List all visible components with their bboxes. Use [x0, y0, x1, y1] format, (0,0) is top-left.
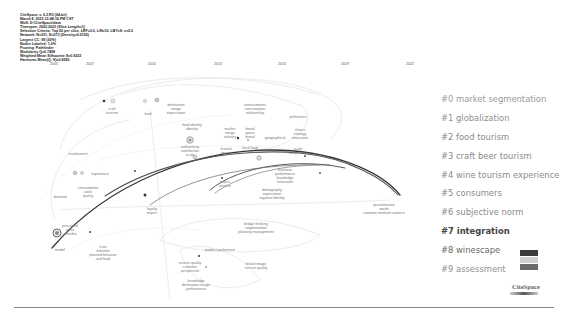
legend-item-cluster-9[interactable]: #9 assessment: [441, 264, 506, 274]
node-label[interactable]: model: [55, 248, 65, 252]
node-label[interactable]: experience: [91, 172, 109, 176]
legend-label: #8 winescape: [441, 245, 500, 255]
legend-label: #3 craft beer tourism: [441, 151, 532, 161]
legend-label: #1 globalization: [441, 113, 509, 123]
legend-label: #0 market segmentation: [441, 94, 546, 104]
legend-item-cluster-1[interactable]: #1 globalization: [441, 113, 509, 123]
node-label[interactable]: questionnaire words common method varian…: [363, 203, 404, 215]
node-label[interactable]: demography expectation regional identity: [259, 188, 284, 200]
legend-item-cluster-8[interactable]: #8 winescape: [441, 245, 500, 255]
node-label[interactable]: scale competition: [289, 147, 307, 155]
legend-item-cluster-7[interactable]: #7 integration: [441, 226, 510, 236]
citespace-logo-mark: [510, 292, 538, 295]
legend-item-cluster-3[interactable]: #3 craft beer tourism: [441, 151, 532, 161]
node-label[interactable]: impact service: [219, 180, 230, 188]
node-label[interactable]: local food food: [242, 146, 257, 154]
node-label[interactable]: festival image: [220, 147, 231, 155]
node-label[interactable]: geographical: [265, 136, 286, 140]
node-label[interactable]: brand image service quality: [245, 262, 268, 270]
legend-item-cluster-0[interactable]: #0 market segmentation: [441, 94, 546, 104]
node-label[interactable]: involvement: [68, 152, 87, 156]
node-label[interactable]: brand space brand: [245, 127, 255, 139]
legend-label: #6 subjective norm: [441, 207, 523, 217]
legend-item-cluster-4[interactable]: #4 wine tourism experience: [441, 170, 559, 180]
node-label[interactable]: product preference: [205, 248, 235, 252]
colorbar-swatch-light: [520, 257, 538, 263]
node-label[interactable]: consumption value quality: [78, 186, 98, 198]
node-label[interactable]: perceived value attitudes: [62, 224, 78, 236]
legend-item-cluster-2[interactable]: #2 food tourism: [441, 132, 509, 142]
node-label[interactable]: choice strategy innovation: [292, 128, 308, 140]
node-label[interactable]: service quality customer perspective: [179, 261, 202, 273]
node-label[interactable]: food: [145, 112, 152, 116]
node-label[interactable]: food identity identity: [182, 123, 201, 131]
bottom-divider: [14, 307, 554, 308]
colorbar-swatch-mid: [520, 264, 538, 270]
node-label[interactable]: reenactments consumption relationship: [244, 103, 266, 115]
node-label[interactable]: bridge thinking segmentation planning ma…: [238, 222, 274, 234]
node-label[interactable]: demand: [54, 195, 67, 199]
node-label[interactable]: knowledge destination image performance: [182, 279, 210, 291]
legend-label: #9 assessment: [441, 264, 506, 274]
node-label[interactable]: preference: [289, 115, 306, 119]
legend-label: #5 consumers: [441, 188, 502, 198]
legend-label: #4 wine tourism experience: [441, 170, 559, 180]
node-label[interactable]: loyalty impact: [147, 207, 158, 215]
legend-label: #7 integration: [441, 226, 510, 236]
node-label[interactable]: market image industry: [224, 127, 237, 139]
node-label[interactable]: business performance knowledge innovatio…: [275, 168, 295, 184]
node-label[interactable]: destination image expectation: [167, 103, 185, 115]
legend-item-cluster-6[interactable]: #6 subjective norm: [441, 207, 523, 217]
node-label[interactable]: trust intention planned behavior and foo…: [89, 245, 117, 261]
node-label[interactable]: craft tourism: [106, 107, 118, 115]
legend-item-cluster-5[interactable]: #5 consumers: [441, 188, 502, 198]
colorbar-swatch-dark: [520, 250, 538, 256]
legend-label: #2 food tourism: [441, 132, 509, 142]
citespace-logo: CiteSpace: [512, 283, 540, 290]
node-label[interactable]: authenticity satisfaction scale: [181, 145, 199, 157]
